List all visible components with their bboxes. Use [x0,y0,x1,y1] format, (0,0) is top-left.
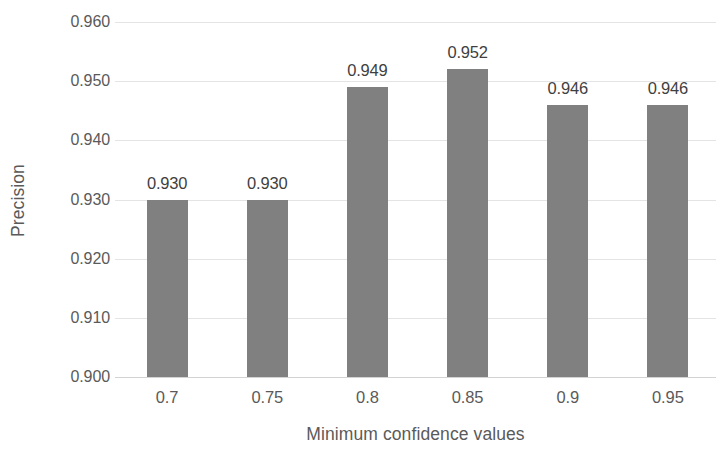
bar-chart: Precision 0.9000.9100.9200.9300.9400.950… [0,0,727,457]
x-axis-tick-label: 0.9 [556,388,579,407]
y-axis-tick-labels: 0.9000.9100.9200.9300.9400.9500.960 [34,0,110,457]
y-axis-tick-label: 0.930 [36,191,110,209]
bar[interactable] [147,200,188,378]
x-axis-tick-label: 0.95 [652,388,684,407]
x-axis-tick-label: 0.85 [452,388,484,407]
y-axis-tick-label: 0.940 [36,131,110,149]
gridline [115,81,716,82]
bar-value-label: 0.930 [247,174,287,193]
bar-value-label: 0.952 [447,43,487,62]
bar[interactable] [247,200,288,378]
x-axis-tick-label: 0.8 [356,388,379,407]
bar-value-label: 0.946 [648,79,688,98]
bar[interactable] [447,69,488,377]
gridline [115,200,716,201]
y-axis-title: Precision [0,0,36,400]
y-axis-tick-label: 0.920 [36,250,110,268]
y-axis-tick-label: 0.950 [36,72,110,90]
bar-value-label: 0.946 [548,79,588,98]
bar-value-label: 0.949 [347,61,387,80]
plot-area [115,22,716,377]
x-axis-title: Minimum confidence values [115,424,716,445]
bar[interactable] [347,87,388,377]
x-axis-tick-label: 0.75 [251,388,283,407]
gridline [115,140,716,141]
bar[interactable] [547,105,588,377]
gridline [115,22,716,23]
x-axis-line [115,377,716,378]
y-axis-tick-label: 0.900 [36,368,110,386]
bar[interactable] [647,105,688,377]
bar-value-label: 0.930 [147,174,187,193]
y-axis-title-text: Precision [8,164,29,237]
x-axis-tick-label: 0.7 [156,388,179,407]
gridline [115,259,716,260]
y-axis-tick-label: 0.910 [36,309,110,327]
gridline [115,318,716,319]
y-axis-tick-label: 0.960 [36,13,110,31]
